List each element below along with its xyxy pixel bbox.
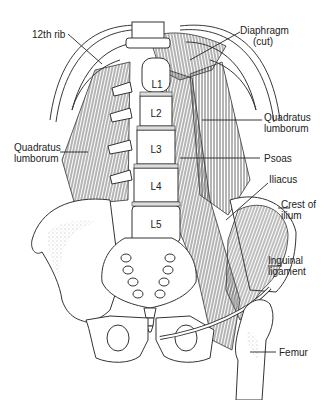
label-quadratus-left-2: lumborum (14, 153, 58, 164)
vertebra-l1: L1 (151, 79, 163, 90)
label-crest-of-ilium-1: Crest of (281, 199, 316, 210)
label-quadratus-right-2: lumborum (264, 123, 308, 134)
label-psoas: Psoas (264, 153, 292, 164)
label-diaphragm-cut: (cut) (253, 36, 273, 47)
label-quadratus-right-1: Quadratus (264, 112, 311, 123)
vertebra-l5: L5 (150, 219, 162, 230)
rib12-leader (68, 34, 102, 64)
label-inguinal-2: ligament (268, 266, 306, 277)
label-diaphragm: Diaphragm (240, 25, 289, 36)
label-quadratus-left-1: Quadratus (14, 142, 61, 153)
label-iliacus: Iliacus (269, 174, 297, 185)
vertebra-l4: L4 (150, 181, 162, 192)
anatomy-figure: L1 L2 L3 L4 L5 (0, 0, 330, 400)
label-crest-of-ilium-2: ilium (281, 210, 302, 221)
label-12th-rib: 12th rib (32, 29, 66, 40)
label-inguinal-1: Inguinal (268, 255, 303, 266)
vertebra-l3: L3 (150, 144, 162, 155)
left-quadratus-lumborum (62, 62, 130, 205)
vertebra-l2: L2 (150, 108, 162, 119)
label-femur: Femur (279, 347, 309, 358)
